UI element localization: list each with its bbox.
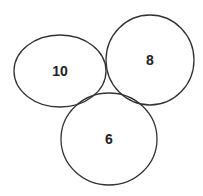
node-bottom: 6: [61, 93, 157, 185]
diagram-canvas: 10 8 6: [0, 0, 203, 196]
label-bottom: 6: [105, 131, 113, 147]
label-left: 10: [52, 63, 68, 79]
label-right: 8: [146, 52, 154, 68]
node-right: 8: [106, 15, 194, 105]
